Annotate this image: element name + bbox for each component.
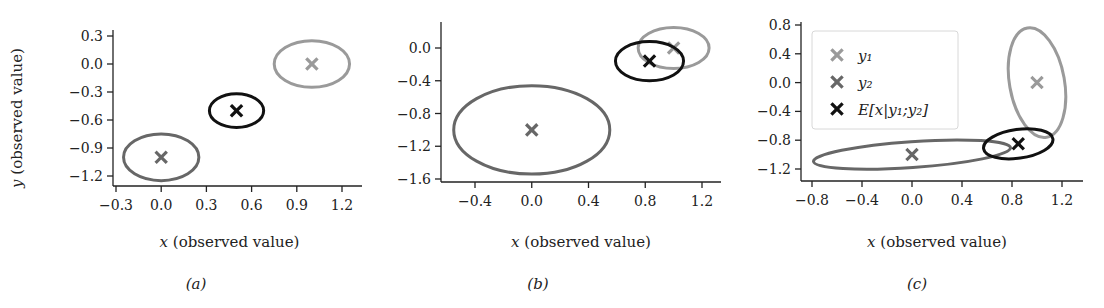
y-tick-label: 0.0 — [409, 40, 431, 56]
y-tick-label: −0.8 — [757, 132, 791, 148]
x-tick-label: 0.0 — [150, 197, 172, 213]
y-tick-label: −0.4 — [757, 103, 791, 119]
x-tick-label: 1.2 — [331, 197, 353, 213]
x-tick-label: −0.8 — [795, 192, 829, 208]
x-tick-label: 0.6 — [240, 197, 262, 213]
x-tick-label: −0.4 — [845, 192, 879, 208]
legend-label: E[x|y₁;y₂] — [857, 101, 928, 119]
panel-caption: (b) — [527, 275, 548, 293]
x-tick-label: 0.0 — [521, 193, 543, 209]
marker-y2-icon — [157, 153, 166, 162]
y-tick-label: −0.9 — [69, 140, 103, 156]
x-axis-label: x (observed value) — [160, 233, 300, 251]
x-tick-label: 1.2 — [1051, 192, 1073, 208]
y-tick-label: −1.2 — [69, 168, 103, 184]
x-axis-label-text: (observed value) — [876, 233, 1007, 251]
y-tick-label: −1.2 — [397, 138, 431, 154]
y-tick-label: 0.4 — [769, 46, 791, 62]
y-tick-label: 0.3 — [81, 28, 103, 44]
marker-estimate-icon — [232, 106, 241, 115]
y-tick-label: −0.6 — [69, 112, 103, 128]
x-axis-label: x (observed value) — [867, 233, 1007, 251]
x-tick-label: 1.2 — [691, 193, 713, 209]
panel-caption: (c) — [907, 275, 927, 293]
y-tick-label: 0.8 — [769, 17, 791, 33]
x-tick-label: 0.8 — [634, 193, 656, 209]
x-tick-label: 0.9 — [286, 197, 308, 213]
legend-label: y₂ — [857, 74, 873, 92]
panel-b: −0.40.00.40.81.20.0−0.4−0.8−1.2−1.6x (ob… — [397, 22, 721, 293]
y-tick-label: 0.0 — [81, 56, 103, 72]
y-tick-label: −0.8 — [397, 106, 431, 122]
x-axis-label: x (observed value) — [511, 233, 651, 251]
panel-caption: (a) — [186, 275, 207, 293]
legend: y₁y₂E[x|y₁;y₂] — [812, 31, 958, 129]
x-tick-label: −0.4 — [458, 193, 492, 209]
marker-y2-icon — [527, 125, 536, 134]
x-tick-label: 0.4 — [577, 193, 599, 209]
marker-y1-icon — [307, 60, 316, 69]
x-axis-label-text: (observed value) — [520, 233, 651, 251]
panel-a: −0.30.00.30.60.91.20.30.0−0.3−0.6−0.9−1.… — [8, 28, 362, 293]
x-tick-label: 0.3 — [195, 197, 217, 213]
marker-estimate-icon — [1014, 139, 1023, 148]
x-tick-label: 0.8 — [1001, 192, 1023, 208]
figure-canvas: −0.30.00.30.60.91.20.30.0−0.3−0.6−0.9−1.… — [0, 0, 1104, 308]
x-tick-label: 0.0 — [901, 192, 923, 208]
legend-label: y₁ — [857, 47, 873, 65]
y-tick-label: −0.3 — [69, 84, 103, 100]
y-tick-label: −1.2 — [757, 161, 791, 177]
panel-c: −0.8−0.40.00.40.81.20.80.40.0−0.4−0.8−1.… — [757, 17, 1083, 293]
x-axis-label-text: (observed value) — [168, 233, 299, 251]
marker-y1-icon — [1033, 78, 1042, 87]
y-tick-label: 0.0 — [769, 75, 791, 91]
marker-y2-icon — [908, 150, 917, 159]
x-tick-label: −0.3 — [99, 197, 133, 213]
y-axis-label-text: (observed value) — [8, 48, 26, 179]
y-axis-label: y (observed value) — [8, 48, 26, 189]
y-tick-label: −1.6 — [397, 171, 431, 187]
x-tick-label: 0.4 — [951, 192, 973, 208]
figure: −0.30.00.30.60.91.20.30.0−0.3−0.6−0.9−1.… — [0, 0, 1104, 308]
y-tick-label: −0.4 — [397, 73, 431, 89]
